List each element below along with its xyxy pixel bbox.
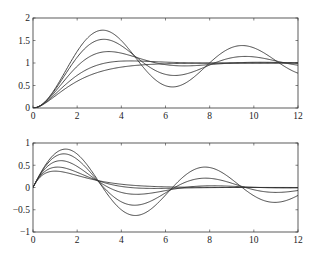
- series-line-zeta-0-4: [33, 161, 298, 195]
- y-tick-label: −0.5: [13, 205, 30, 215]
- y-tick-label: 2: [25, 13, 30, 23]
- figure: 02468101200.511.52 024681012−1−0.500.51: [0, 0, 312, 257]
- series-line-zeta-0-1: [33, 30, 298, 108]
- y-tick-label: 1.5: [18, 36, 30, 46]
- x-tick-label: 0: [31, 111, 36, 121]
- step-response-plot: 02468101200.511.52: [18, 13, 303, 121]
- y-tick-label: 0: [25, 183, 30, 193]
- x-tick-label: 12: [293, 111, 303, 121]
- impulse-response-plot: 024681012−1−0.500.51: [13, 138, 303, 245]
- y-tick-label: 0: [25, 103, 30, 113]
- y-tick-label: −1: [20, 227, 30, 237]
- series-line-zeta-0-1: [33, 149, 298, 215]
- x-tick-label: 10: [249, 111, 259, 121]
- x-tick-label: 12: [293, 235, 303, 245]
- y-tick-label: 0.5: [18, 161, 30, 171]
- series-line-zeta-0-7: [33, 167, 298, 188]
- x-tick-label: 4: [119, 111, 124, 121]
- x-tick-label: 8: [207, 111, 212, 121]
- y-tick-label: 1: [25, 58, 30, 68]
- series-line-zeta-0-2: [33, 154, 298, 205]
- x-tick-label: 2: [75, 111, 80, 121]
- series-line-zeta-0-4: [33, 52, 298, 108]
- x-tick-label: 2: [75, 235, 80, 245]
- x-tick-label: 0: [31, 235, 36, 245]
- y-tick-label: 0.5: [18, 81, 30, 91]
- x-tick-label: 4: [119, 235, 124, 245]
- series-line-zeta-1-0: [33, 171, 298, 187]
- x-tick-label: 6: [163, 111, 168, 121]
- x-tick-label: 6: [163, 235, 168, 245]
- x-tick-label: 8: [207, 235, 212, 245]
- curves: [33, 30, 298, 108]
- y-tick-label: 1: [25, 138, 30, 148]
- x-tick-label: 10: [249, 235, 259, 245]
- curves: [33, 149, 298, 215]
- series-line-zeta-0-7: [33, 61, 298, 108]
